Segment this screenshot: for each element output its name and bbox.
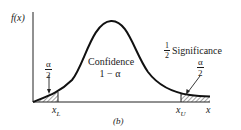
confidence-interval-diagram: f(x) α 2 Confidence 1 − α 1 2 Significan… [0, 0, 241, 130]
confidence-value: 1 − α [88, 69, 132, 79]
confidence-label: Confidence 1 − α [88, 57, 132, 79]
left-tail-alpha-half: α 2 [45, 60, 52, 80]
left-tail-den: 2 [46, 70, 51, 80]
confidence-text: Confidence [88, 57, 132, 67]
right-tail-arrow [188, 76, 200, 92]
right-tail-den: 2 [198, 68, 203, 78]
y-axis-label: f(x) [11, 13, 25, 23]
x-lower-label: xL [52, 105, 60, 118]
half-fraction: 1 2 [164, 42, 170, 60]
left-tail-arrowhead [47, 89, 51, 94]
right-tail-alpha-half: α 2 [197, 58, 204, 78]
x-upper-label: xU [176, 105, 186, 118]
right-tail-num: α [197, 58, 204, 68]
left-tail-num: α [45, 60, 52, 70]
x-axis-label: x [206, 105, 210, 115]
significance-label: Significance [172, 46, 222, 56]
panel-label: (b) [113, 117, 124, 126]
